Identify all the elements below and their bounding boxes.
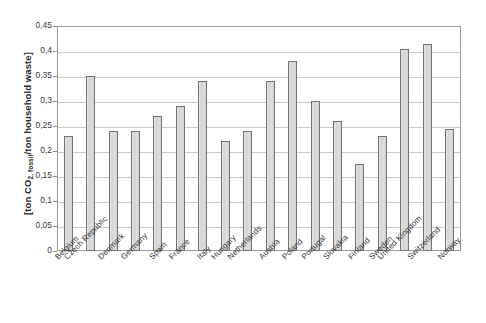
x-axis-label-slot: Portugal: [304, 252, 326, 322]
y-axis-tick-label: 0,3: [12, 96, 52, 105]
x-axis-label-slot: France: [169, 252, 191, 322]
bar: [198, 81, 207, 251]
bar-slot: [349, 26, 371, 251]
x-axis-label-slot: Austria: [259, 252, 281, 322]
bar: [445, 129, 454, 252]
x-axis-label-slot: Norway: [438, 252, 460, 322]
bar-slot: [147, 26, 169, 251]
y-axis-tick-label: 0,1: [12, 196, 52, 205]
bar: [400, 49, 409, 252]
bar: [109, 131, 118, 251]
x-axis-label-slot: Netherlands: [237, 252, 259, 322]
bar: [131, 131, 140, 251]
y-axis-tick-label: 0,25: [12, 121, 52, 130]
x-axis-label-slot: Spain: [147, 252, 169, 322]
bar-slot: [57, 26, 79, 251]
bar-slot: [371, 26, 393, 251]
bar: [311, 101, 320, 251]
bar: [266, 81, 275, 251]
bar: [176, 106, 185, 251]
bar: [333, 121, 342, 251]
x-axis-labels: BelgiumCzech RepublicDenmarkGermanySpain…: [57, 252, 461, 322]
y-axis-tick-label: 0,4: [12, 46, 52, 55]
y-axis-tick-label: 0,45: [12, 21, 52, 30]
x-axis-label-slot: Belgium: [57, 252, 79, 322]
y-axis-tick-label: 0,15: [12, 171, 52, 180]
bar-slot: [192, 26, 214, 251]
x-axis-label-slot: United Kingdom: [394, 252, 416, 322]
bar: [423, 44, 432, 252]
bar-slot: [124, 26, 146, 251]
x-axis-label-slot: Slovakia: [326, 252, 348, 322]
x-axis-label-slot: Czech Republic: [79, 252, 101, 322]
bar-slot: [326, 26, 348, 251]
x-axis-label-slot: Switzerland: [416, 252, 438, 322]
bar-slot: [438, 26, 460, 251]
bar-slot: [304, 26, 326, 251]
x-axis-label-slot: Germany: [124, 252, 146, 322]
x-axis-label-slot: Hungary: [214, 252, 236, 322]
bar-slot: [237, 26, 259, 251]
y-axis-tick-label: 0,35: [12, 71, 52, 80]
x-axis-label-slot: Poland: [281, 252, 303, 322]
bar: [378, 136, 387, 251]
y-axis-tick-label: 0,05: [12, 221, 52, 230]
bar-series: [57, 26, 461, 251]
y-axis-tick-label: 0,2: [12, 146, 52, 155]
y-axis-title: [ton CO2, fossil/ton household waste]: [22, 21, 33, 246]
bar: [288, 61, 297, 251]
x-axis-label-slot: Italy: [192, 252, 214, 322]
x-axis-label-slot: Sweden: [371, 252, 393, 322]
bar-slot: [214, 26, 236, 251]
x-axis-label-slot: Finland: [349, 252, 371, 322]
y-axis-tick-label: 0: [12, 246, 52, 255]
bar-slot: [259, 26, 281, 251]
bar: [64, 136, 73, 251]
bar-slot: [169, 26, 191, 251]
bar: [153, 116, 162, 251]
x-axis-label-slot: Denmark: [102, 252, 124, 322]
bar-slot: [281, 26, 303, 251]
bar-chart: [ton CO2, fossil/ton household waste] 0,…: [0, 0, 486, 323]
